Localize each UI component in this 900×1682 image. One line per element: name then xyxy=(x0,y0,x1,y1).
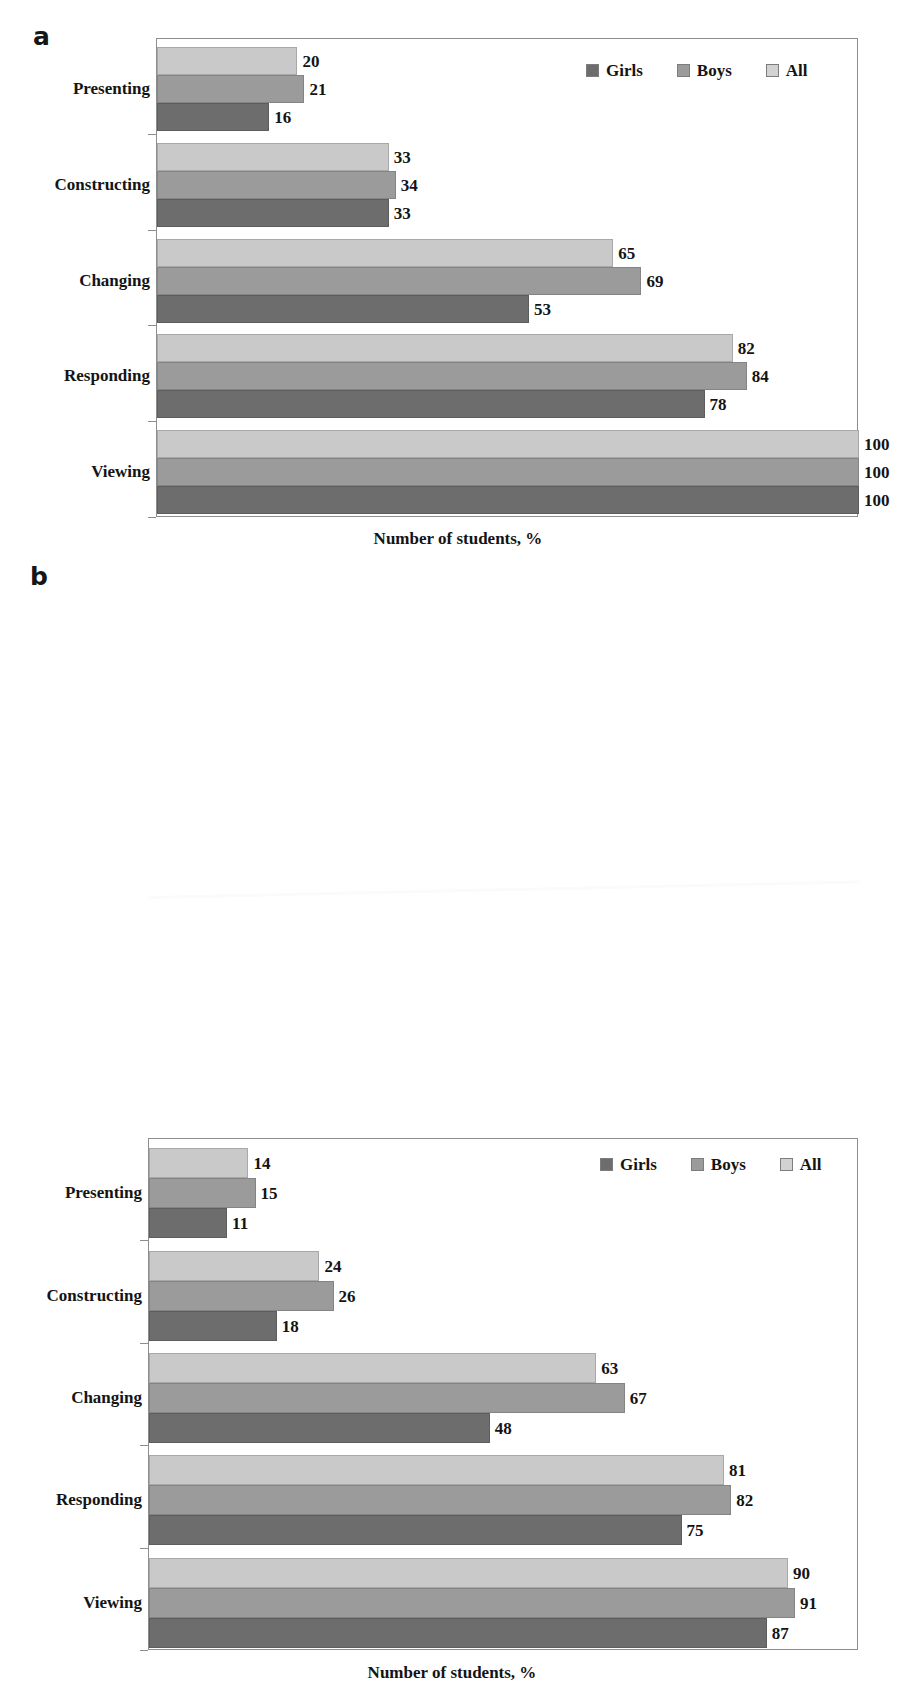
bar-value-label: 16 xyxy=(269,108,291,125)
bar-value-label: 33 xyxy=(389,204,411,221)
bar-row: 82 xyxy=(149,1485,857,1515)
bar-value-label: 82 xyxy=(733,340,755,357)
bar-value-label: 21 xyxy=(304,80,326,97)
bar-row: 48 xyxy=(149,1413,857,1443)
bar-girls xyxy=(149,1618,767,1648)
bar-girls xyxy=(149,1311,277,1341)
legend-label-all: All xyxy=(800,1156,822,1173)
bar-row: 100 xyxy=(157,458,857,486)
bar-value-label: 100 xyxy=(859,464,890,481)
bar-row: 91 xyxy=(149,1588,857,1618)
category-label-viewing: Viewing xyxy=(4,1593,142,1610)
bar-row: 33 xyxy=(157,199,857,227)
plot-area-a: 202116333433656953828478100100100 xyxy=(156,38,858,517)
legend-swatch-girls-icon xyxy=(600,1158,613,1171)
legend-b: Girls Boys All xyxy=(600,1156,822,1173)
x-axis-title-a: Number of students, % xyxy=(0,530,900,547)
bar-value-label: 33 xyxy=(389,148,411,165)
bar-value-label: 20 xyxy=(297,52,319,69)
panel-label-a: a xyxy=(33,24,50,49)
y-axis-tick xyxy=(148,134,156,135)
category-label-presenting: Presenting xyxy=(4,1184,142,1201)
bar-row: 26 xyxy=(149,1281,857,1311)
panel-b: b 141511242618636748818275909187 Present… xyxy=(0,560,900,1143)
bar-row: 67 xyxy=(149,1383,857,1413)
bar-boys xyxy=(157,267,641,295)
bar-girls xyxy=(149,1515,682,1545)
bar-boys xyxy=(149,1178,256,1208)
legend-label-girls: Girls xyxy=(606,62,643,79)
category-label-constructing: Constructing xyxy=(4,1286,142,1303)
bar-group: 100100100 xyxy=(157,430,857,514)
bar-all xyxy=(157,239,613,267)
bar-value-label: 78 xyxy=(705,396,727,413)
bar-value-label: 48 xyxy=(490,1420,512,1437)
bar-value-label: 26 xyxy=(334,1287,356,1304)
panel-a: a 202116333433656953828478100100100 Pres… xyxy=(0,0,900,560)
y-axis-tick xyxy=(148,421,156,422)
bar-row: 16 xyxy=(157,103,857,131)
bar-group: 656953 xyxy=(157,239,857,323)
y-axis-tick xyxy=(140,1548,148,1549)
bar-group: 828478 xyxy=(157,334,857,418)
bar-all xyxy=(149,1148,248,1178)
category-label-changing: Changing xyxy=(4,271,150,288)
bar-row: 21 xyxy=(157,75,857,103)
bar-row: 24 xyxy=(149,1251,857,1281)
panel-label-b: b xyxy=(30,564,48,589)
bar-girls xyxy=(149,1413,490,1443)
category-label-viewing: Viewing xyxy=(4,463,150,480)
bar-value-label: 81 xyxy=(724,1462,746,1479)
bar-girls xyxy=(157,199,389,227)
bar-boys xyxy=(149,1383,625,1413)
y-axis-tick xyxy=(140,1240,148,1241)
bar-row: 78 xyxy=(157,390,857,418)
bar-row: 82 xyxy=(157,334,857,362)
bar-value-label: 69 xyxy=(641,272,663,289)
category-label-constructing: Constructing xyxy=(4,175,150,192)
bar-group: 242618 xyxy=(149,1251,857,1341)
bar-row: 100 xyxy=(157,486,857,514)
bar-all xyxy=(149,1455,724,1485)
bar-row: 69 xyxy=(157,267,857,295)
legend-item-girls: Girls xyxy=(586,62,643,79)
legend-label-girls: Girls xyxy=(620,1156,657,1173)
bar-row: 84 xyxy=(157,362,857,390)
bar-row: 18 xyxy=(149,1311,857,1341)
legend-label-boys: Boys xyxy=(697,62,732,79)
bar-value-label: 87 xyxy=(767,1624,789,1641)
bar-value-label: 90 xyxy=(788,1564,810,1581)
bar-row: 33 xyxy=(157,143,857,171)
bar-row: 63 xyxy=(149,1353,857,1383)
bar-value-label: 15 xyxy=(256,1185,278,1202)
legend-swatch-girls-icon xyxy=(586,64,599,77)
legend-swatch-all-icon xyxy=(766,64,779,77)
bar-row: 53 xyxy=(157,295,857,323)
bar-group: 636748 xyxy=(149,1353,857,1443)
bar-value-label: 67 xyxy=(625,1390,647,1407)
y-axis-tick xyxy=(140,1445,148,1446)
legend-item-all: All xyxy=(766,62,808,79)
bar-all xyxy=(157,430,859,458)
legend-item-girls: Girls xyxy=(600,1156,657,1173)
bars-container-b: 141511242618636748818275909187 xyxy=(149,1139,857,1649)
bar-boys xyxy=(149,1588,795,1618)
bar-all xyxy=(149,1353,596,1383)
bar-value-label: 18 xyxy=(277,1317,299,1334)
bar-value-label: 53 xyxy=(529,300,551,317)
bar-all xyxy=(157,334,733,362)
bar-row: 87 xyxy=(149,1618,857,1648)
bar-row: 65 xyxy=(157,239,857,267)
y-axis-tick xyxy=(148,325,156,326)
bar-value-label: 65 xyxy=(613,244,635,261)
bar-row: 34 xyxy=(157,171,857,199)
bar-boys xyxy=(149,1485,731,1515)
bar-row: 90 xyxy=(149,1558,857,1588)
legend-swatch-boys-icon xyxy=(677,64,690,77)
bar-group: 202116 xyxy=(157,47,857,131)
legend-label-all: All xyxy=(786,62,808,79)
y-axis-tick xyxy=(140,1650,148,1651)
bar-girls xyxy=(157,486,859,514)
bars-container-a: 202116333433656953828478100100100 xyxy=(157,39,857,516)
legend-item-boys: Boys xyxy=(691,1156,746,1173)
